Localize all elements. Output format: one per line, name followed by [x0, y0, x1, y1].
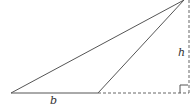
height-label: h	[178, 46, 185, 59]
triangle-left-side	[11, 0, 184, 93]
triangle-right-side	[98, 0, 184, 93]
triangle-diagram: b h	[0, 0, 192, 107]
base-label: b	[50, 94, 57, 107]
right-angle-marker	[180, 85, 188, 93]
